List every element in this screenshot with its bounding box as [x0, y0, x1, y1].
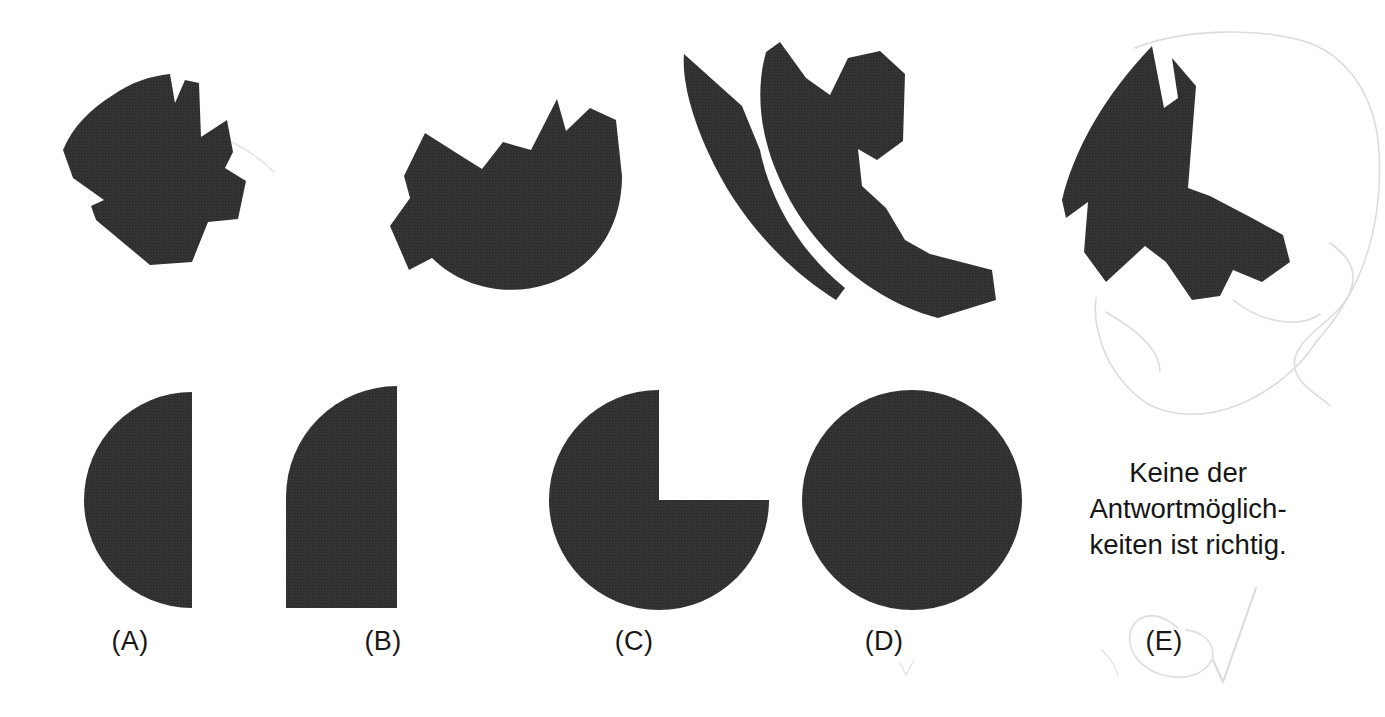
- fragment-4: [1062, 46, 1290, 300]
- option-shape-b: [286, 386, 397, 608]
- fragment-1: [63, 74, 246, 265]
- option-e-text[interactable]: Keine der Antwortmöglich- keiten ist ric…: [1038, 455, 1338, 562]
- option-shape-c: [549, 390, 769, 610]
- option-shape-a: [84, 392, 192, 608]
- option-e-line-1: Keine der: [1038, 455, 1338, 491]
- fragment-2: [390, 99, 622, 290]
- figures-layer: [0, 0, 1385, 717]
- option-label-c[interactable]: (C): [602, 628, 666, 655]
- option-label-a[interactable]: (A): [98, 628, 162, 655]
- option-label-d[interactable]: (D): [852, 628, 916, 655]
- option-label-e[interactable]: (E): [1132, 628, 1196, 655]
- option-label-b[interactable]: (B): [351, 628, 415, 655]
- fragment-3: [684, 42, 996, 318]
- option-shape-d: [802, 390, 1022, 610]
- worksheet-page: (A) (B) (C) (D) (E) Keine der Antwortmög…: [0, 0, 1385, 717]
- option-e-line-2: Antwortmöglich-: [1038, 491, 1338, 527]
- option-e-line-3: keiten ist richtig.: [1038, 527, 1338, 563]
